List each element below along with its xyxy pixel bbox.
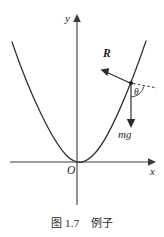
reaction-force-line	[106, 72, 130, 83]
reaction-force-arrowhead	[101, 68, 110, 76]
reaction-force-label: R	[103, 48, 111, 60]
figure-caption: 图 1.7 例子	[0, 214, 164, 230]
origin-label: O	[67, 165, 75, 177]
y-axis-arrowhead	[73, 14, 81, 22]
contact-point-dot	[129, 81, 133, 85]
y-axis-label: y	[65, 13, 70, 24]
weight-label: mg	[118, 129, 131, 140]
reaction-force-vector	[101, 68, 131, 83]
theta-angle-label: θ	[134, 88, 139, 98]
parabola-curve	[12, 41, 146, 162]
weight-arrowhead	[127, 119, 135, 128]
physics-figure: y x O R mg θ 图 1.7 例子	[0, 0, 164, 237]
figure-canvas	[0, 0, 164, 237]
x-axis-label: x	[150, 166, 155, 177]
